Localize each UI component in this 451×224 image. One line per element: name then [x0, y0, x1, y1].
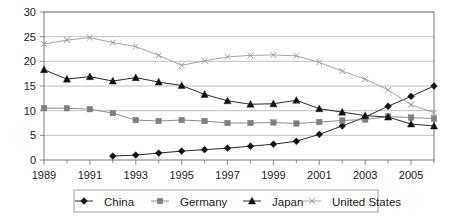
marker-square: [408, 115, 414, 121]
marker-diamond: [109, 153, 116, 160]
marker-triangle: [201, 91, 208, 98]
series-united-states: [41, 35, 437, 116]
series-path: [44, 70, 434, 126]
x-tick-label: 1995: [169, 169, 193, 181]
series-germany: [41, 105, 437, 126]
y-tick-label: 5: [30, 129, 36, 141]
marker-square: [41, 105, 47, 111]
x-tick-label: 1997: [215, 169, 239, 181]
marker-x: [408, 102, 414, 108]
marker-x: [156, 53, 162, 59]
marker-diamond: [270, 141, 277, 148]
marker-diamond: [155, 150, 162, 157]
series-path: [44, 38, 434, 113]
y-tick-label: 30: [24, 6, 36, 18]
marker-triangle: [132, 74, 139, 81]
y-tick-label: 20: [24, 55, 36, 67]
marker-diamond: [293, 138, 300, 145]
marker-square: [202, 118, 208, 124]
marker-x: [362, 76, 368, 82]
marker-triangle: [316, 105, 323, 112]
marker-square: [339, 118, 345, 124]
marker-square: [179, 117, 185, 123]
chart-legend: ChinaGermanyJapanUnited States: [74, 190, 401, 212]
marker-x: [339, 68, 345, 74]
marker-diamond: [408, 93, 415, 100]
marker-square: [156, 118, 162, 124]
marker-diamond: [431, 83, 438, 90]
marker-square: [157, 198, 163, 204]
marker-x: [316, 59, 322, 65]
y-tick-label: 10: [24, 105, 36, 117]
marker-square: [225, 120, 231, 126]
legend-label-text: Japan: [272, 196, 303, 208]
x-tick-label: 1991: [78, 169, 102, 181]
marker-triangle: [86, 73, 93, 80]
marker-x: [385, 87, 391, 93]
legend-label-text: China: [104, 196, 135, 208]
marker-diamond: [201, 146, 208, 153]
line-chart: 0510152025301989199119931995199719992001…: [0, 0, 451, 224]
marker-square: [431, 116, 437, 122]
x-tick-label: 1993: [124, 169, 148, 181]
marker-square: [316, 119, 322, 125]
x-tick-label: 1999: [261, 169, 285, 181]
marker-square: [87, 106, 93, 112]
x-tick-label: 2001: [307, 169, 331, 181]
x-tick-label: 2003: [353, 169, 377, 181]
x-tick-label: 1989: [32, 169, 56, 181]
x-tick-label: 2005: [399, 169, 423, 181]
legend-label-text: Germany: [180, 196, 228, 208]
marker-square: [133, 117, 139, 123]
legend-label-text: United States: [332, 196, 401, 208]
marker-diamond: [316, 131, 323, 138]
marker-triangle: [293, 97, 300, 104]
marker-triangle: [40, 66, 47, 73]
series-japan: [40, 66, 437, 129]
marker-diamond: [132, 152, 139, 159]
marker-square: [271, 120, 277, 126]
y-tick-label: 15: [24, 80, 36, 92]
marker-diamond: [339, 123, 346, 130]
y-tick-label: 25: [24, 31, 36, 43]
marker-square: [294, 121, 300, 127]
marker-square: [248, 120, 254, 126]
marker-diamond: [224, 145, 231, 152]
marker-diamond: [178, 148, 185, 155]
marker-square: [110, 110, 116, 116]
marker-diamond: [385, 103, 392, 110]
chart-canvas: 0510152025301989199119931995199719992001…: [0, 0, 451, 224]
marker-square: [64, 105, 70, 111]
marker-diamond: [247, 143, 254, 150]
y-tick-label: 0: [30, 154, 36, 166]
